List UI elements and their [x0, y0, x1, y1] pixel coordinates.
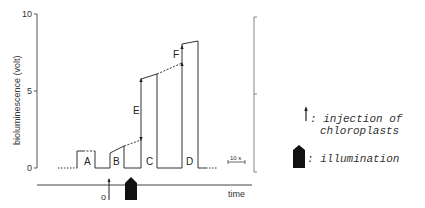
pulse-d [182, 41, 206, 168]
time-origin-label: o [101, 192, 106, 202]
segment-label-c: C [146, 156, 153, 167]
right-bracket [254, 17, 257, 172]
extrapolation-c-d [157, 63, 182, 74]
pulse-a-left [77, 151, 83, 168]
segment-label-a: A [84, 156, 91, 167]
segment-label-b: B [113, 156, 120, 167]
legend-item-injection: : injection of chloroplasts [304, 106, 403, 137]
illumination-icon [293, 145, 305, 168]
time-scale-bar: 10 s [228, 155, 245, 164]
illumination-icon [125, 177, 137, 200]
scale-bar-label: 10 s [230, 155, 241, 161]
legend-illumination: : illumination [307, 153, 399, 165]
y-axis-label: bioluminescence (volt) [12, 55, 22, 145]
arrow-up-icon [304, 106, 307, 111]
segment-label-f: F [173, 49, 179, 60]
legend-injection-line1: : injection of [310, 113, 403, 125]
legend-item-illumination: : illumination [293, 145, 399, 168]
segment-label-d: D [186, 156, 193, 167]
y-tick-10: 10 [22, 9, 32, 19]
y-tick-0: 0 [27, 163, 32, 173]
pulse-c [141, 63, 182, 168]
chart-figure: 10 5 0 bioluminescence (volt) A B C D E … [0, 0, 425, 208]
extrapolation-b-c [124, 140, 141, 146]
arrow-up-icon [180, 45, 183, 49]
y-axis: 10 5 0 bioluminescence (volt) [12, 9, 37, 173]
time-axis: time o [37, 177, 252, 202]
y-tick-5: 5 [27, 86, 32, 96]
injection-arrow-icon [108, 178, 111, 182]
legend-injection-line2: chloroplasts [320, 125, 399, 137]
segment-label-e: E [133, 105, 140, 116]
arrow-down-icon [139, 137, 142, 141]
legend: : injection of chloroplasts : illuminati… [293, 106, 403, 168]
x-axis-label: time [228, 189, 245, 199]
